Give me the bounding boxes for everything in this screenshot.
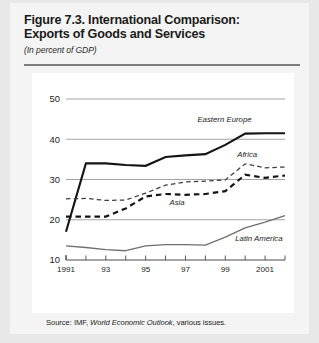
y-tick-40: 40 <box>50 134 60 145</box>
series-line-latin-america <box>66 216 285 251</box>
figure-header: Figure 7.3. International Comparison: Ex… <box>24 13 302 55</box>
series-line-asia <box>66 175 285 217</box>
series-label-eastern-europe: Eastern Europe <box>197 115 252 124</box>
series-label-latin-america: Latin America <box>235 234 283 243</box>
figure-subtitle: (In percent of GDP) <box>24 45 302 55</box>
x-tick-1993: 93 <box>101 265 111 274</box>
y-tick-10: 10 <box>50 254 60 265</box>
source-note: Source: IMF, World Economic Outlook, var… <box>46 318 226 327</box>
title-divider <box>24 64 300 66</box>
x-tick-1995: 95 <box>141 265 151 274</box>
source-suffix: , various issues. <box>173 318 227 327</box>
page-title: Figure 7.3. International Comparison: Ex… <box>24 13 302 42</box>
x-axis-tick-labels: 1991939597992001 <box>57 265 275 274</box>
y-tick-20: 20 <box>50 214 60 225</box>
x-tick-1991: 1991 <box>57 265 76 274</box>
series-label-africa: Africa <box>236 150 258 159</box>
x-tick-1997: 97 <box>181 265 191 274</box>
figure-title-line2: Exports of Goods and Services <box>24 27 302 41</box>
source-prefix: Source: IMF, <box>46 318 90 327</box>
y-tick-50: 50 <box>50 93 60 104</box>
figure-title-line1: Figure 7.3. International Comparison: <box>24 13 240 27</box>
series-label-asia: Asia <box>169 198 186 207</box>
y-tick-30: 30 <box>50 174 60 185</box>
line-chart: 1020304050 1991939597992001 Eastern Euro… <box>32 73 294 313</box>
x-tick-1999: 99 <box>221 265 231 274</box>
y-axis-tick-labels: 1020304050 <box>50 93 60 265</box>
x-axis <box>66 255 285 260</box>
x-tick-2001: 2001 <box>256 265 275 274</box>
chart-plot-panel: 1020304050 1991939597992001 Eastern Euro… <box>32 73 294 313</box>
figure-card: Figure 7.3. International Comparison: Ex… <box>10 3 309 334</box>
source-publication: World Economic Outlook <box>90 318 172 327</box>
